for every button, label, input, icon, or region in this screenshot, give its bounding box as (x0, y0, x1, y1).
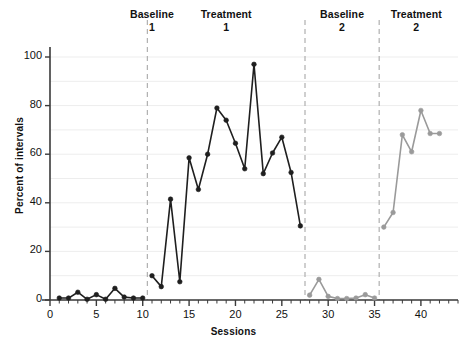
data-point (205, 152, 210, 157)
data-point (113, 286, 118, 291)
data-point (289, 170, 294, 175)
data-point (85, 297, 90, 302)
data-point (382, 225, 387, 230)
data-point (215, 106, 220, 111)
data-point (252, 62, 257, 67)
axis-lines (42, 47, 458, 300)
data-point (326, 294, 331, 299)
data-point (187, 156, 192, 161)
data-point (261, 171, 266, 176)
y-axis-title: Percent of intervals (14, 111, 25, 221)
data-point (363, 292, 368, 297)
data-point (400, 132, 405, 137)
data-point (354, 296, 359, 301)
data-point (428, 131, 433, 136)
data-point (317, 277, 322, 282)
data-series-markers (57, 62, 442, 302)
data-point (437, 131, 442, 136)
data-point (224, 118, 229, 123)
data-point (122, 295, 127, 300)
series-line-0 (59, 288, 142, 299)
data-point (270, 151, 275, 156)
data-point (76, 290, 81, 295)
x-tick-label: 0 (30, 308, 70, 320)
data-point (233, 141, 238, 146)
y-tick-label: 100 (2, 49, 42, 61)
x-tick-label: 40 (401, 308, 441, 320)
data-point (242, 166, 247, 171)
chart-container: Baseline1Treatment1Baseline2Treatment2 0… (0, 0, 467, 348)
data-point (335, 296, 340, 301)
data-point (391, 210, 396, 215)
y-tick-label: 20 (2, 243, 42, 255)
data-point (409, 149, 414, 154)
y-tick-label: 80 (2, 98, 42, 110)
x-tick-label: 15 (169, 308, 209, 320)
data-point (280, 135, 285, 140)
series-line-3 (384, 110, 440, 227)
x-tick-label: 25 (262, 308, 302, 320)
data-point (131, 296, 136, 301)
data-point (168, 197, 173, 202)
data-point (159, 284, 164, 289)
data-point (66, 296, 71, 301)
x-tick-label: 20 (215, 308, 255, 320)
data-point (140, 296, 145, 301)
plot-area (0, 0, 467, 348)
data-point (178, 279, 183, 284)
data-series-lines (59, 64, 439, 299)
x-axis-title: Sessions (0, 326, 467, 337)
data-point (298, 224, 303, 229)
x-tick-label: 30 (308, 308, 348, 320)
x-tick-label: 5 (76, 308, 116, 320)
data-point (344, 296, 349, 301)
data-point (372, 296, 377, 301)
x-tick-label: 35 (355, 308, 395, 320)
data-point (307, 293, 312, 298)
data-point (94, 292, 99, 297)
data-point (419, 108, 424, 113)
data-point (103, 297, 108, 302)
data-point (150, 273, 155, 278)
data-point (57, 296, 62, 301)
series-line-1 (152, 64, 300, 286)
x-tick-label: 10 (123, 308, 163, 320)
y-tick-label: 0 (2, 292, 42, 304)
data-point (196, 187, 201, 192)
